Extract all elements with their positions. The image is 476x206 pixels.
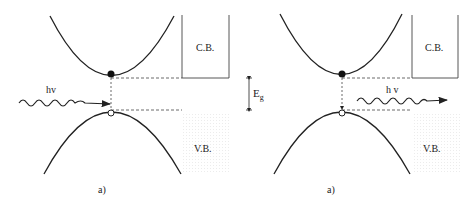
conduction-band-curve [50,16,174,76]
gap-label: Eg [253,87,264,102]
photon-label-right: h v [386,84,399,95]
caption-left: a) [98,184,106,195]
cb-label-left: C.B. [196,42,214,53]
photon-in-icon [19,100,110,106]
photon-label-left: hv [46,84,56,95]
vb-label-right: V.B. [423,143,441,154]
band-diagram [0,0,476,206]
photon-out-icon [357,98,447,104]
cb-label-right: C.B. [425,42,443,53]
hole-icon [108,110,114,116]
vb-label-left: V.B. [194,143,212,154]
electron-icon [108,71,115,78]
caption-right: a) [327,184,335,195]
valence-band-curve [44,112,181,174]
